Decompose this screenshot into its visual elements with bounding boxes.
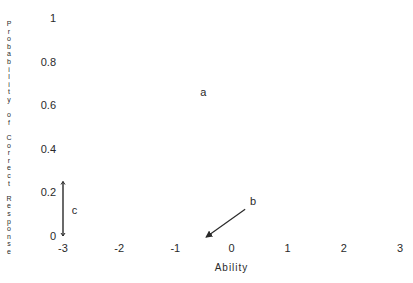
y-label-char: y — [7, 96, 11, 104]
annotation-arrow-b — [206, 209, 245, 237]
x-tick-label: -3 — [58, 242, 68, 254]
y-label-char: i — [8, 66, 10, 73]
x-tick-label: 0 — [228, 242, 234, 254]
y-label-char: P — [7, 20, 12, 27]
y-label-char: n — [7, 233, 11, 240]
y-label-char: s — [7, 240, 11, 247]
y-axis-ticks: 00.20.40.60.81 — [41, 12, 56, 242]
y-label-char: o — [7, 225, 11, 232]
y-label-char: t — [8, 180, 10, 187]
annotation-a: a — [200, 86, 207, 98]
x-tick-label: -2 — [114, 242, 124, 254]
y-label-char: b — [7, 58, 11, 65]
y-label-char: i — [8, 81, 10, 88]
y-label-char: e — [7, 202, 11, 209]
annotation-c: c — [72, 204, 78, 216]
y-label-char: b — [7, 43, 11, 50]
annotation-b: b — [250, 195, 256, 207]
y-label-char: r — [8, 157, 11, 164]
y-label-char: s — [7, 210, 11, 217]
x-tick-label: -1 — [170, 242, 180, 254]
chart: ProbabilityofCorrectResponse 00.20.40.60… — [0, 0, 413, 283]
y-label-char: a — [7, 50, 11, 57]
y-label-char: o — [7, 111, 11, 118]
y-tick-label: 0.8 — [41, 56, 56, 68]
y-label-char: C — [6, 134, 11, 141]
y-tick-label: 0.2 — [41, 186, 56, 198]
x-axis-label: Ability — [215, 262, 249, 273]
y-tick-label: 1 — [50, 12, 56, 24]
y-label-char: e — [7, 248, 11, 255]
y-label-char: e — [7, 164, 11, 171]
x-tick-label: 2 — [341, 242, 347, 254]
y-label-char: o — [7, 142, 11, 149]
y-label-char: r — [8, 149, 11, 156]
x-tick-label: 1 — [285, 242, 291, 254]
annotations: abc — [61, 86, 256, 237]
y-label-char: R — [6, 195, 11, 202]
y-label-char: l — [8, 73, 10, 80]
x-axis-ticks: -3-2-10123 — [58, 242, 403, 254]
y-label-char: c — [7, 172, 11, 179]
y-label-char: r — [8, 28, 11, 35]
y-tick-label: 0.4 — [41, 143, 56, 155]
y-tick-label: 0 — [50, 230, 56, 242]
y-tick-label: 0.6 — [41, 99, 56, 111]
y-label-char: o — [7, 35, 11, 42]
x-tick-label: 3 — [397, 242, 403, 254]
y-label-char: f — [8, 119, 10, 126]
y-axis-label: ProbabilityofCorrectResponse — [6, 20, 11, 255]
y-label-char: t — [8, 88, 10, 95]
